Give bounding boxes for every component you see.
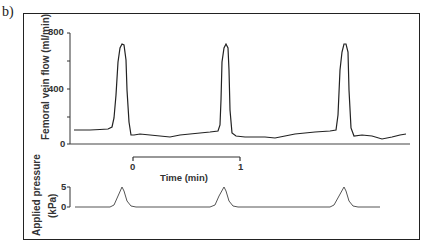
chart-graphics	[0, 0, 429, 250]
flow-y-axis	[67, 33, 70, 144]
pressure-y-axis	[67, 187, 70, 207]
pressure-trace	[75, 187, 380, 207]
time-scale-bar	[133, 157, 240, 161]
flow-trace	[74, 44, 406, 139]
